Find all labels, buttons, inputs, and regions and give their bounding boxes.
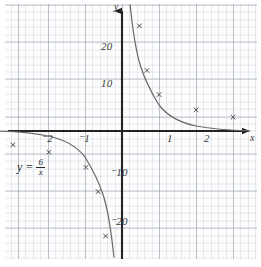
graph-plot <box>0 0 261 267</box>
y-tick-neg20: ⁻20 <box>110 216 128 227</box>
y-axis-label: y <box>114 2 118 12</box>
y-tick-neg10: ⁻10 <box>110 167 128 178</box>
equation-denominator: x <box>37 168 45 177</box>
y-tick-10: 10 <box>101 78 113 89</box>
y-tick-20: 20 <box>101 41 113 52</box>
x-tick-1: 1 <box>167 133 173 144</box>
equation-equals: = <box>25 160 33 175</box>
graph-figure: y x 20 10 ⁻10 ⁻20 ⁻2 ⁻1 1 2 y = 6 x <box>0 0 261 267</box>
x-tick-2: 2 <box>204 133 210 144</box>
x-axis-label: x <box>250 133 254 143</box>
equation-numerator: 6 <box>36 158 45 167</box>
equation-annotation: y = 6 x <box>17 158 45 178</box>
x-tick-neg1: ⁻1 <box>78 133 90 144</box>
equation-fraction: 6 x <box>36 158 45 178</box>
equation-lhs: y <box>17 160 22 175</box>
curve-branch-negative <box>0 131 114 257</box>
x-tick-neg2: ⁻2 <box>41 133 53 144</box>
curve-branch-positive <box>130 5 250 131</box>
